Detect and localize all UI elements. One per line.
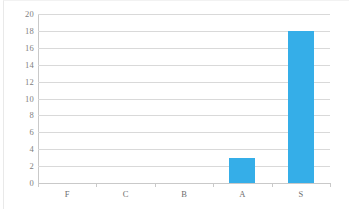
y-axis-tick-label: 8 [8, 111, 34, 120]
gridline [38, 132, 330, 133]
gridline [38, 99, 330, 100]
x-axis-tick-label: F [47, 190, 87, 199]
y-axis-tick-label: 0 [8, 179, 34, 188]
gridline [38, 115, 330, 116]
gridline [38, 65, 330, 66]
gridline [38, 149, 330, 150]
x-axis-tick [155, 183, 156, 187]
x-axis-tick [213, 183, 214, 187]
bar [288, 31, 314, 183]
y-axis-tick-label: 10 [8, 95, 34, 104]
plot-area [38, 14, 330, 183]
x-axis-tick [38, 183, 39, 187]
x-axis-tick [272, 183, 273, 187]
x-axis-tick [96, 183, 97, 187]
y-axis-tick-label: 4 [8, 145, 34, 154]
y-axis-tick-label: 16 [8, 44, 34, 53]
x-axis-tick-label: B [164, 190, 204, 199]
y-axis-tick-label: 20 [8, 10, 34, 19]
y-axis-tick-label: 18 [8, 27, 34, 36]
gridline [38, 82, 330, 83]
x-axis-tick-label: A [222, 190, 262, 199]
gridline [38, 31, 330, 32]
x-axis-tick-label: S [281, 190, 321, 199]
x-axis-tick [330, 183, 331, 187]
gridline [38, 183, 330, 184]
bar-chart: 02468101214161820 FCBAS [0, 0, 350, 211]
bar [229, 158, 255, 183]
y-axis-tick-label: 14 [8, 61, 34, 70]
y-axis-tick-label: 6 [8, 128, 34, 137]
gridline [38, 14, 330, 15]
gridline [38, 166, 330, 167]
gridline [38, 48, 330, 49]
y-axis-tick-label: 12 [8, 78, 34, 87]
y-axis-tick-label: 2 [8, 162, 34, 171]
x-axis-tick-label: C [106, 190, 146, 199]
